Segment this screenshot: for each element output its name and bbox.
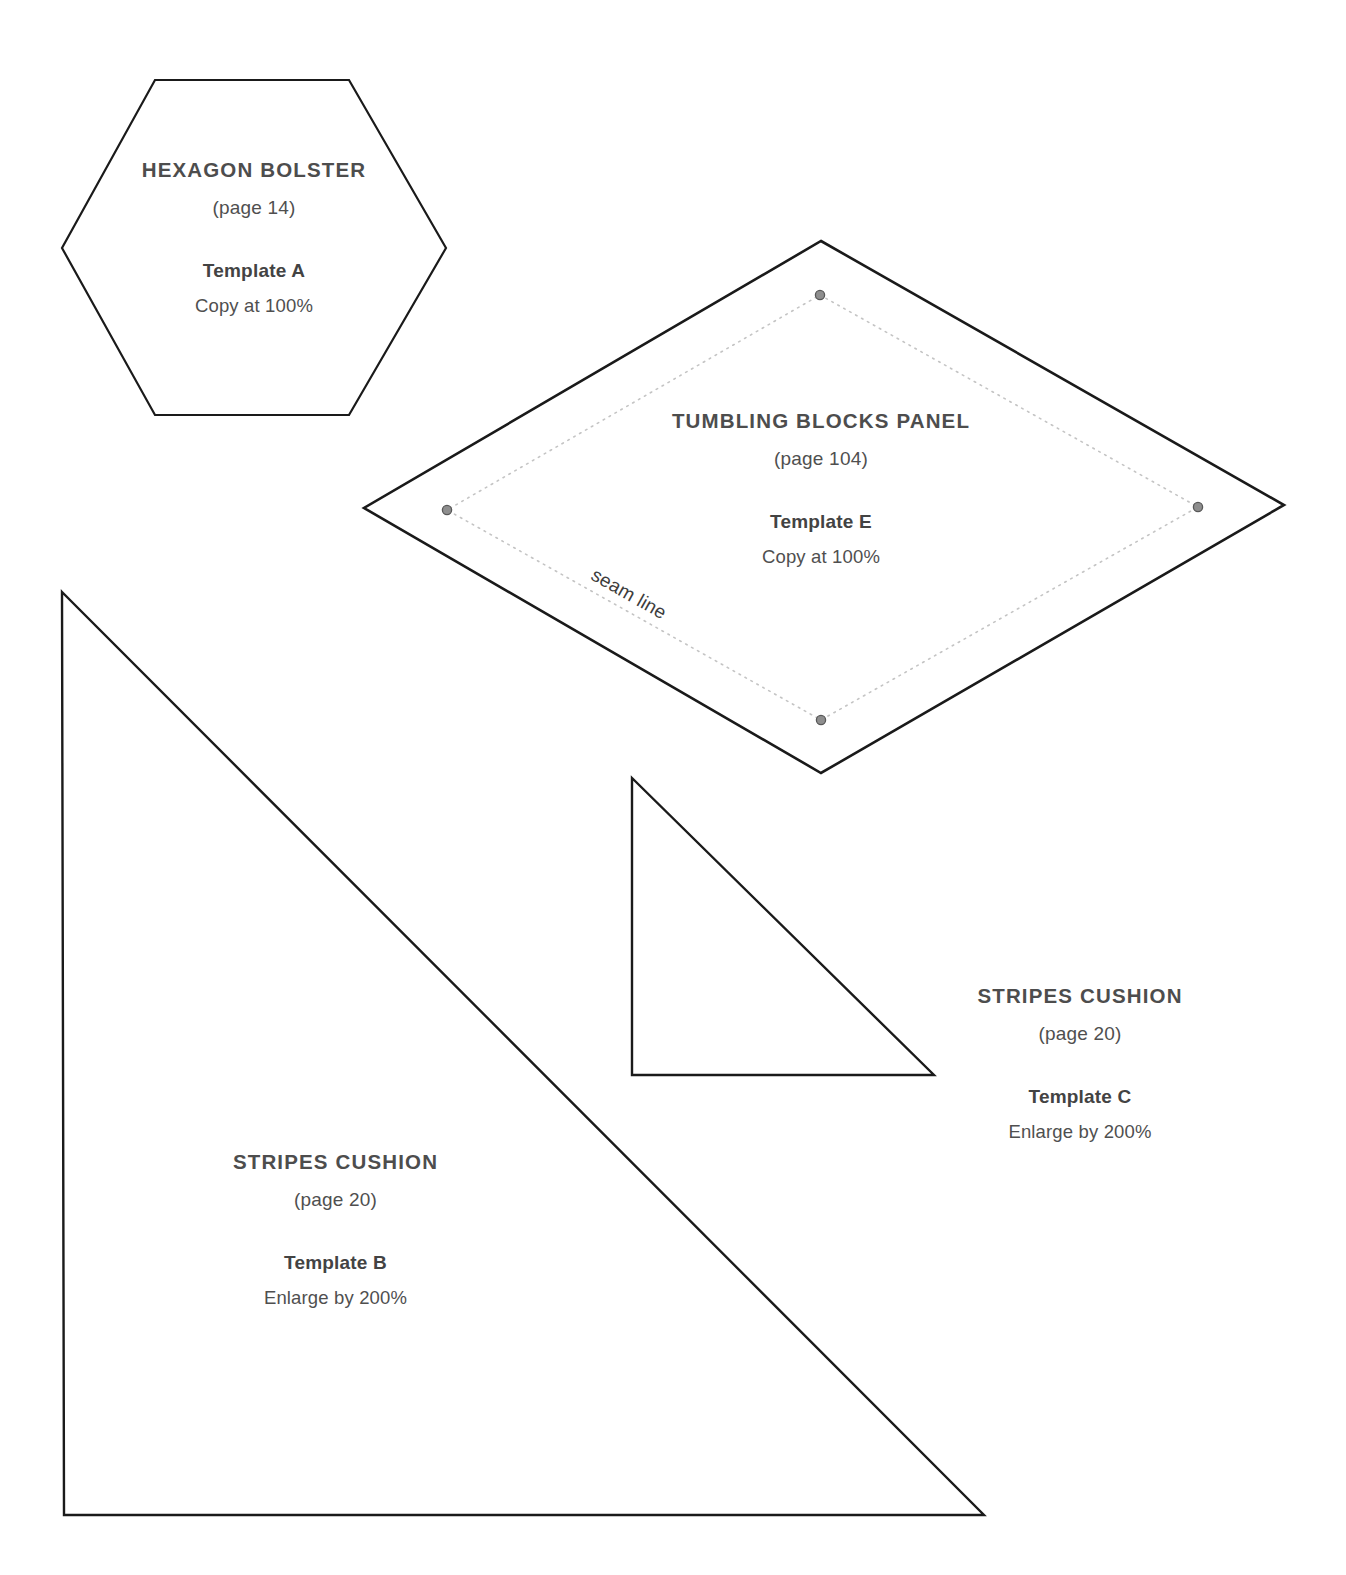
template-c-page-ref: (page 20) (866, 1024, 1294, 1043)
template-e-title: TUMBLING BLOCKS PANEL (562, 411, 1080, 432)
label-block-template-a: HEXAGON BOLSTER (page 14) Template A Cop… (0, 160, 508, 315)
template-a-page-ref: (page 14) (0, 198, 508, 217)
template-e-template-label: Template E (562, 512, 1080, 531)
seam-dot-left (442, 505, 451, 514)
template-b-scale-note: Enlarge by 200% (123, 1289, 548, 1308)
seam-dot-right (1193, 502, 1202, 511)
template-c-template-label: Template C (866, 1087, 1294, 1106)
label-block-template-c: STRIPES CUSHION (page 20) Template C Enl… (866, 986, 1294, 1141)
template-a-title: HEXAGON BOLSTER (0, 160, 508, 181)
template-b-template-label: Template B (123, 1253, 548, 1272)
pattern-template-sheet: HEXAGON BOLSTER (page 14) Template A Cop… (0, 0, 1346, 1575)
seam-dot-bottom (816, 715, 825, 724)
template-a-template-label: Template A (0, 261, 508, 280)
label-block-template-b: STRIPES CUSHION (page 20) Template B Enl… (123, 1152, 548, 1307)
template-c-title: STRIPES CUSHION (866, 986, 1294, 1007)
template-b-page-ref: (page 20) (123, 1190, 548, 1209)
label-block-template-e: TUMBLING BLOCKS PANEL (page 104) Templat… (562, 411, 1080, 566)
template-b-title: STRIPES CUSHION (123, 1152, 548, 1173)
template-a-scale-note: Copy at 100% (0, 297, 508, 316)
seam-dot-top (815, 290, 824, 299)
template-e-scale-note: Copy at 100% (562, 548, 1080, 567)
template-c-scale-note: Enlarge by 200% (866, 1123, 1294, 1142)
template-e-page-ref: (page 104) (562, 449, 1080, 468)
triangle-outline-template-b (62, 592, 984, 1515)
